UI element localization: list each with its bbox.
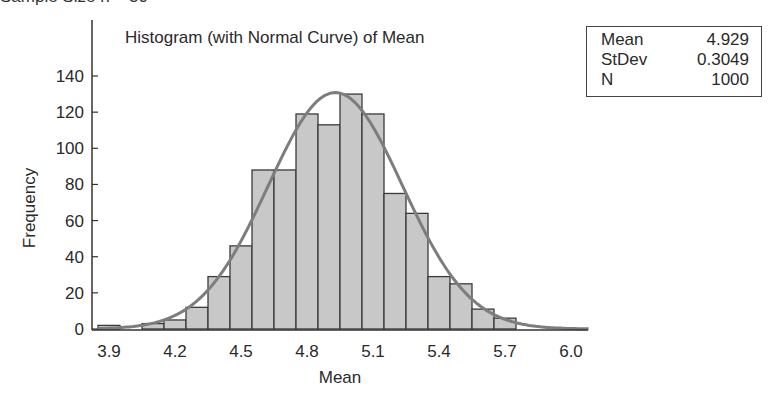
y-tick-label: 100 <box>56 139 84 158</box>
chart-title: Histogram (with Normal Curve) of Mean <box>125 28 424 47</box>
stat-row-mean: Mean 4.929 <box>601 30 749 50</box>
histogram-bar <box>340 94 362 329</box>
x-tick-label: 4.5 <box>229 342 253 361</box>
stat-row-stdev: StDev 0.3049 <box>601 50 749 70</box>
stat-label: Mean <box>601 30 644 50</box>
x-axis-label: Mean <box>319 368 362 387</box>
y-tick-label: 120 <box>56 103 84 122</box>
x-tick-label: 5.1 <box>361 342 385 361</box>
stat-value: 0.3049 <box>697 50 749 70</box>
y-tick-label: 60 <box>65 212 84 231</box>
histogram-bar <box>450 284 472 329</box>
x-tick-label: 5.4 <box>427 342 451 361</box>
stat-row-n: N 1000 <box>601 70 749 90</box>
y-tick-label: 140 <box>56 67 84 86</box>
histogram-bar <box>230 246 252 329</box>
histogram-bar <box>296 114 318 329</box>
x-tick-label: 3.9 <box>97 342 121 361</box>
x-tick-label: 4.8 <box>295 342 319 361</box>
y-tick-label: 80 <box>65 175 84 194</box>
histogram-bar <box>384 193 406 329</box>
histogram-bar <box>428 277 450 329</box>
stat-value: 1000 <box>711 70 749 90</box>
x-tick-label: 4.2 <box>163 342 187 361</box>
histogram-bar <box>362 114 384 329</box>
stat-value: 4.929 <box>706 30 749 50</box>
stats-legend-box: Mean 4.929 StDev 0.3049 N 1000 <box>586 26 762 97</box>
histogram-bar <box>318 125 340 329</box>
stat-label: N <box>601 70 613 90</box>
y-tick-label: 20 <box>65 284 84 303</box>
histogram-bar <box>274 170 296 329</box>
x-tick-label: 5.7 <box>493 342 517 361</box>
histogram-bar <box>164 320 186 329</box>
histogram-bar <box>186 307 208 329</box>
y-tick-label: 40 <box>65 248 84 267</box>
x-tick-label: 6.0 <box>559 342 583 361</box>
y-tick-label: 0 <box>75 320 84 339</box>
y-axis-label: Frequency <box>20 167 39 248</box>
stat-label: StDev <box>601 50 647 70</box>
